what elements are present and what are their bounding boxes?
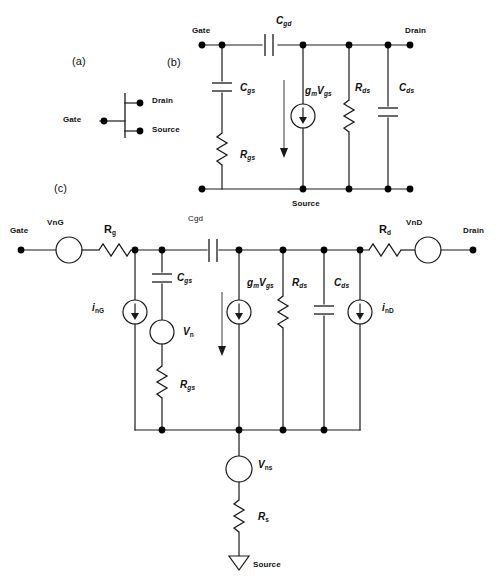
panel-b-cds-label: Cds [399, 83, 414, 93]
panel-b-circuit [199, 34, 414, 192]
panel-c-rs-label: Rs [258, 512, 269, 522]
panel-a-drain-label: Drain [152, 97, 173, 105]
panel-b-source-label: Source [292, 200, 320, 208]
panel-c-source-label: Source [253, 561, 281, 569]
panel-b-rds-label: Rds [355, 83, 370, 93]
panel-c-ing-label: inG [92, 303, 104, 313]
panel-label-b: (b) [167, 57, 181, 68]
panel-a-gate-label: Gate [63, 116, 81, 124]
panel-b-rgs-label: Rgs [240, 150, 255, 160]
panel-c-gm-vgs-label: gmVgs [247, 278, 274, 288]
panel-c-cgs-label: Cgs [177, 273, 192, 283]
panel-label-c: (c) [54, 183, 67, 194]
panel-c-vn-label: Vn [183, 327, 194, 337]
panel-c-rds-label: Rds [292, 278, 307, 288]
panel-c-rd-label: Rd [379, 224, 391, 235]
panel-b-drain-label: Drain [405, 27, 426, 35]
panel-label-a: (a) [72, 56, 86, 67]
panel-b-gm-vgs-label: gmVgs [305, 86, 332, 96]
panel-c-gate-label: Gate [10, 227, 28, 235]
panel-c-rgs-label: Rgs [180, 380, 195, 390]
panel-c-cds-label: Cds [334, 278, 349, 288]
panel-b-gate-label: Gate [192, 27, 210, 35]
panel-c-ind-label: inD [382, 303, 394, 313]
panel-a-symbol [100, 93, 143, 138]
panel-c-vns-label: Vns [258, 460, 273, 470]
panel-c-rg-label: Rg [104, 224, 116, 235]
figure-canvas: (a) (b) (c) Gate Drain Source Gate Drain… [0, 0, 498, 584]
panel-c-drain-label: Drain [463, 227, 484, 235]
panel-c-vnd-label: VnD [406, 219, 422, 227]
panel-c-cgd-label: Cgd [188, 215, 203, 223]
panel-a-source-label: Source [152, 126, 180, 134]
panel-c-vng-label: VnG [47, 219, 64, 227]
panel-b-cgd-label: Cgd [276, 16, 291, 26]
panel-b-cgs-label: Cgs [240, 83, 255, 93]
